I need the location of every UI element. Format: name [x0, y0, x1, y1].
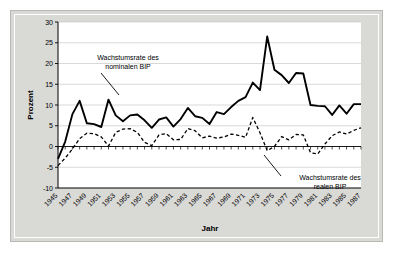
x-tick-label: 1957	[129, 192, 145, 208]
x-axis-title: Jahr	[202, 224, 219, 233]
y-tick-label: 10	[45, 102, 53, 109]
y-axis-title: Prozent	[26, 90, 35, 120]
x-tick-label: 1983	[317, 192, 333, 208]
chart-figure: 302520151050-5-10 1945194719491951195319…	[0, 0, 393, 255]
x-tick-label: 1975	[259, 192, 275, 208]
x-tick-label: 1973	[245, 192, 261, 208]
y-tick-label: -5	[47, 164, 53, 171]
y-tick-label: 20	[45, 60, 53, 67]
real-annotation-line1: Wachstumsrate des	[299, 174, 361, 181]
x-tick-label: 1945	[43, 192, 59, 208]
x-axis-tick-labels: 1945194719491951195319551957195919611963…	[43, 192, 362, 208]
x-tick-label: 1955	[115, 192, 131, 208]
x-tick-label: 1963	[173, 192, 189, 208]
x-tick-label: 1987	[346, 192, 362, 208]
x-tick-label: 1951	[86, 192, 102, 208]
x-tick-label: 1971	[230, 192, 246, 208]
y-tick-label: -10	[43, 185, 53, 192]
y-axis-tick-labels: 302520151050-5-10	[43, 19, 53, 192]
x-tick-label: 1967	[201, 192, 217, 208]
line-chart: 302520151050-5-10 1945194719491951195319…	[0, 0, 393, 255]
x-tick-label: 1979	[288, 192, 304, 208]
x-tick-label: 1953	[100, 192, 116, 208]
y-tick-label: 5	[49, 122, 53, 129]
x-tick-label: 1965	[187, 192, 203, 208]
x-tick-label: 1959	[144, 192, 160, 208]
y-tick-label: 0	[49, 143, 53, 150]
x-tick-label: 1947	[57, 192, 73, 208]
x-tick-label: 1961	[158, 192, 174, 208]
y-tick-label: 15	[45, 81, 53, 88]
nominal-annotation-line1: Wachstumsrate des	[97, 54, 159, 61]
nominal-annotation-line2: nominalen BIP	[105, 63, 151, 70]
x-tick-label: 1949	[72, 192, 88, 208]
y-tick-label: 25	[45, 39, 53, 46]
x-tick-label: 1977	[274, 192, 290, 208]
x-tick-label: 1985	[331, 192, 347, 208]
real-annotation-line2: realen BIP	[314, 183, 347, 190]
y-tick-label: 30	[45, 19, 53, 26]
x-tick-label: 1969	[216, 192, 232, 208]
x-tick-label: 1981	[302, 192, 318, 208]
